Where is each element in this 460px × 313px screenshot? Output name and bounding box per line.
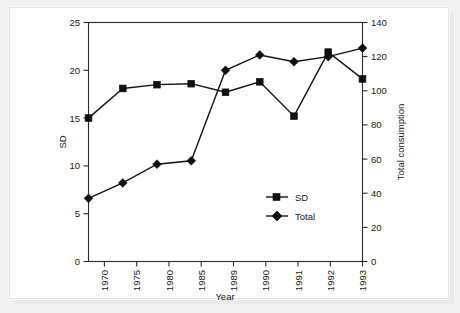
data-point-total-1975: [118, 179, 127, 188]
y-right-tick-labels: 140 120 100 80 60 40 20 0: [371, 17, 387, 267]
y-left-tick-label: 20: [69, 65, 80, 76]
y-left-axis-title: SD: [57, 135, 68, 148]
data-point-sd-1989: [222, 89, 229, 96]
x-tick-label: 1991: [293, 270, 304, 291]
data-point-total-1980: [153, 160, 162, 169]
data-point-sd-1980: [154, 81, 161, 88]
data-point-total-1990: [255, 51, 264, 60]
data-point-sd-1991: [291, 113, 298, 120]
x-tick-label: 1980: [164, 270, 175, 291]
y-right-tick-label: 60: [371, 154, 382, 165]
data-point-sd-1993: [359, 76, 366, 83]
y-left-axis-ticks: [84, 23, 89, 262]
y-left-tick-label: 15: [69, 113, 80, 124]
y-right-tick-label: 140: [371, 17, 387, 28]
y-right-tick-label: 80: [371, 119, 382, 130]
y-right-axis-ticks: [363, 23, 368, 262]
x-tick-label: 1989: [228, 270, 239, 291]
y-left-tick-label: 25: [69, 17, 80, 28]
legend-sd-marker-square-icon: [273, 194, 280, 201]
y-right-axis-title: Total consumption: [395, 104, 406, 181]
x-tick-label: 1992: [325, 270, 336, 291]
legend-sd-label: SD: [295, 192, 308, 203]
y-left-tick-label: 5: [75, 208, 80, 219]
data-point-sd-1975: [119, 85, 126, 92]
series-layer: [84, 44, 367, 203]
chart-legend: SD Total: [266, 192, 315, 222]
y-right-tick-label: 20: [371, 222, 382, 233]
x-tick-label: 1990: [260, 270, 271, 291]
y-right-tick-label: 0: [371, 256, 376, 267]
y-left-tick-labels: 25 20 15 10 5 0: [69, 17, 80, 267]
data-point-total-1991: [290, 57, 299, 66]
data-point-total-1989: [221, 66, 230, 75]
data-point-sd-1990: [256, 78, 263, 85]
x-tick-label: 1993: [357, 270, 368, 291]
y-right-tick-label: 40: [371, 188, 382, 199]
x-tick-label: 1975: [131, 270, 142, 291]
y-left-tick-label: 0: [75, 256, 80, 267]
screenshot-root: 25 20 15 10 5 0 140 120 100 80 60 40 20: [0, 0, 460, 313]
data-point-sd-1985: [188, 80, 195, 87]
y-left-tick-label: 10: [69, 160, 80, 171]
x-tick-label: 1970: [99, 270, 110, 291]
legend-total-marker-diamond-icon: [272, 211, 282, 221]
data-point-sd-1970: [85, 115, 92, 122]
line-chart: 25 20 15 10 5 0 140 120 100 80 60 40 20: [0, 0, 460, 313]
data-point-total-1993: [358, 44, 367, 53]
series-line-sd: [89, 52, 363, 118]
x-tick-labels: 1970 1975 1980 1985 1989 1990 1991 1992 …: [99, 270, 368, 291]
legend-total-label: Total: [295, 211, 315, 222]
x-axis-ticks: [104, 262, 362, 267]
y-right-tick-label: 120: [371, 51, 387, 62]
x-axis-title: Year: [215, 291, 234, 302]
y-right-tick-label: 100: [371, 85, 387, 96]
x-tick-label: 1985: [196, 270, 207, 291]
data-point-total-1985: [187, 156, 196, 165]
data-point-total-1970: [84, 194, 93, 203]
